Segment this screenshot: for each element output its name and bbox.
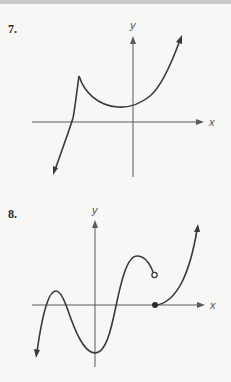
graph-7-x-label: x [208, 116, 215, 128]
graph-7-curve-arrow-up [176, 35, 182, 44]
graph-8-number-label: 8. [8, 207, 17, 221]
graph-8: 8. x y [8, 204, 216, 367]
graph-8-curve-arrow-down [34, 349, 40, 358]
graph-7: 7. x y [8, 19, 215, 177]
graph-8-x-label: x [209, 299, 216, 311]
graph-7-curve-arrow-down [53, 166, 58, 175]
graph-7-x-axis-arrow [196, 119, 204, 125]
graph-8-y-label: y [91, 204, 99, 216]
graph-7-number-label: 7. [8, 22, 17, 36]
graph-7-y-label: y [129, 19, 137, 31]
graph-8-open-circle [152, 272, 157, 277]
graph-8-curve-arrow-up [194, 224, 200, 232]
graph-8-y-axis-arrow [92, 220, 98, 228]
graph-8-curve-right-piece [155, 230, 197, 305]
graph-8-x-axis-arrow [197, 302, 205, 308]
graph-8-closed-dot [152, 302, 158, 308]
graph-7-curve-left-branch [55, 76, 79, 170]
graph-7-curve-right-branch [79, 40, 180, 107]
graph-7-y-axis-arrow [130, 36, 136, 44]
graphs-figure: 7. x y 8. x y [0, 0, 231, 382]
